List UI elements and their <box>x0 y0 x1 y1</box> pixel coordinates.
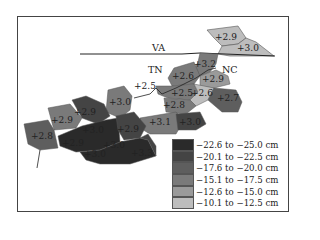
state-label-nc: NC <box>222 64 238 75</box>
region-value-label: +2.9 <box>215 32 237 42</box>
legend-swatch <box>172 197 194 209</box>
legend-swatch <box>172 186 194 198</box>
region-value-label: +3.0 <box>84 149 106 159</box>
legend-label: −22.6 to −25.0 cm <box>196 140 278 150</box>
legend-item: −10.1 to −12.5 cm <box>172 197 278 209</box>
region-value-label: +2.9 <box>51 115 73 125</box>
region-value-label: +2.9 <box>117 124 139 134</box>
legend-label: −17.6 to −20.0 cm <box>196 163 278 173</box>
region-value-label: +3.0 <box>82 125 104 135</box>
region-value-label: +2.6 <box>172 71 194 81</box>
region-value-label: +3.0 <box>179 117 201 127</box>
region-value-label: +2.6 <box>191 88 213 98</box>
region-value-label: +2.8 <box>163 100 185 110</box>
legend-item: −22.6 to −25.0 cm <box>172 139 278 151</box>
region-value-label: +3.0 <box>109 97 131 107</box>
legend-item: −15.1 to −17.5 cm <box>172 174 278 186</box>
region-value-label: +3.2 <box>194 59 216 69</box>
legend-label: −15.1 to −17.5 cm <box>196 175 278 185</box>
region-value-label: +3.1 <box>149 117 171 127</box>
region-value-label: +2.7 <box>217 93 239 103</box>
leader-line <box>37 150 40 168</box>
region-value-label: +2.9 <box>74 107 96 117</box>
region-value-label: +3.0 <box>103 140 125 150</box>
legend-swatch <box>172 174 194 186</box>
state-label-tn: TN <box>148 64 163 75</box>
region-value-label: +3.0 <box>237 43 259 53</box>
legend-item: −12.6 to −15.0 cm <box>172 186 278 198</box>
region-value-label: +2.8 <box>31 131 53 141</box>
legend-label: −10.1 to −12.5 cm <box>196 198 278 208</box>
legend-item: −20.1 to −22.5 cm <box>172 151 278 163</box>
region-value-label: +2.5 <box>171 88 193 98</box>
legend-item: −17.6 to −20.0 cm <box>172 162 278 174</box>
legend-swatch <box>172 151 194 163</box>
legend-swatch <box>172 162 194 174</box>
region-value-label: +2.5 <box>134 81 156 91</box>
state-label-va: VA <box>151 42 165 53</box>
region-value-label: +2.9 <box>62 138 84 148</box>
legend-label: −12.6 to −15.0 cm <box>196 187 278 197</box>
legend-label: −20.1 to −22.5 cm <box>196 152 278 162</box>
region-value-label: +2.9 <box>202 74 224 84</box>
region-value-label: +3.3 <box>131 148 153 158</box>
legend-swatch <box>172 139 194 151</box>
legend: −22.6 to −25.0 cm −20.1 to −22.5 cm −17.… <box>172 139 278 209</box>
